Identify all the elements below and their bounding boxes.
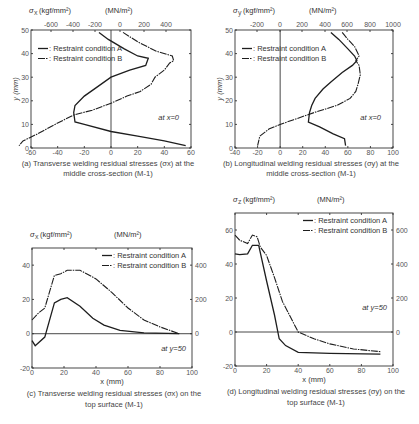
y-tick-label: 60 (225, 227, 233, 234)
x-tick-label: -20 (253, 149, 263, 156)
y-tick-label: 0 (229, 329, 233, 336)
x-tick-label: 0 (109, 149, 113, 156)
caption-line-1: (c) Transverse welding residual stresses… (27, 389, 201, 398)
x-top-tick-label: -200 (88, 21, 102, 28)
y-axis-symbol-sub: z (238, 198, 242, 205)
x-tick-label: 60 (326, 367, 334, 374)
y-tick-label: 20 (225, 97, 233, 104)
y-right-tick-label: 400 (195, 262, 207, 269)
caption-line-2: top surface (M-1) (85, 400, 143, 409)
y-axis-symbol-sub: y (238, 9, 242, 17)
annotation: at x=0 (158, 113, 179, 122)
y-right-tick-label: 400 (396, 261, 408, 268)
x-tick-label: 20 (263, 367, 271, 374)
series-restraint-b (32, 270, 179, 333)
y-axis-label: y (mm) (11, 77, 20, 102)
x-top-tick-label: 1000 (385, 21, 401, 28)
y-tick-label: 40 (225, 261, 233, 268)
x-top-tick-label: 400 (319, 21, 331, 28)
x-tick-label: 80 (156, 369, 164, 376)
annotation: at y=50 (161, 344, 187, 353)
annotation: at x=0 (360, 113, 381, 122)
y-right-tick-label: 200 (195, 296, 207, 303)
y-tick-label: 20 (21, 97, 29, 104)
y-right-tick-label: 600 (396, 227, 408, 234)
x-tick-label: 0 (30, 369, 34, 376)
unit-label-kgf: (kgf/mm²) (39, 6, 72, 15)
figure-canvas: σx(kgf/mm²)(MN/m²)-60-40-200204060-600-4… (0, 0, 419, 424)
y-tick-label: -20 (223, 363, 233, 370)
chart-a: σx(kgf/mm²)(MN/m²)-60-40-200204060-600-4… (11, 6, 195, 178)
caption-line-1: (b) Longitudinal welding residual stress… (223, 159, 399, 168)
x-top-tick-label: 0 (118, 21, 122, 28)
x-tick-label: 20 (299, 149, 307, 156)
caption-line-1: (a) Transverse welding residual stresses… (22, 159, 195, 168)
x-tick-label: 100 (387, 367, 399, 374)
x-tick-label: 60 (124, 369, 132, 376)
x-tick-label: 100 (387, 149, 399, 156)
y-tick-label: 40 (21, 50, 29, 57)
x-tick-label: 60 (187, 149, 195, 156)
legend-b: : Restraint condition B (113, 261, 186, 270)
y-tick-label: 20 (225, 295, 233, 302)
unit-label-mn: (MN/m²) (114, 230, 142, 239)
y-tick-label: 30 (21, 74, 29, 81)
unit-label-mn: (MN/m²) (309, 6, 337, 15)
x-top-tick-label: 200 (296, 21, 308, 28)
x-top-tick-label: -200 (250, 21, 264, 28)
x-top-tick-label: 600 (341, 21, 353, 28)
series-restraint-a (32, 298, 179, 346)
x-tick-label: 60 (344, 149, 352, 156)
y-tick-label: 20 (22, 296, 30, 303)
x-tick-label: 40 (92, 369, 100, 376)
x-tick-label: 40 (160, 149, 168, 156)
y-tick-label: 10 (225, 121, 233, 128)
chart-d: σz(kgf/mm²)(MN/m²)020406080100-200204060… (223, 195, 408, 407)
x-axis-label: x (mm) (100, 377, 124, 386)
y-tick-label: 50 (225, 27, 233, 34)
y-axis-symbol-sub: x (34, 9, 38, 16)
caption-line-2: middle cross-section (M-1) (63, 169, 153, 178)
y-tick-label: -20 (20, 365, 30, 372)
y-tick-label: 50 (21, 27, 29, 34)
x-tick-label: 20 (134, 149, 142, 156)
x-tick-label: 40 (321, 149, 329, 156)
y-right-tick-label: 0 (195, 330, 199, 337)
legend-a: : Restraint condition A (49, 44, 122, 53)
y-tick-label: 40 (225, 50, 233, 57)
x-tick-label: 80 (358, 367, 366, 374)
y-right-tick-label: 0 (396, 329, 400, 336)
legend-a: : Restraint condition A (113, 251, 186, 260)
legend-b: : Restraint condition B (253, 54, 326, 63)
x-tick-label: 40 (294, 367, 302, 374)
chart-c: σx(kgf/mm²)(MN/m²)020406080100-200204002… (20, 230, 207, 409)
plot-frame (235, 213, 393, 366)
y-axis-label: y (mm) (215, 77, 224, 102)
x-tick-label: 0 (233, 367, 237, 374)
x-tick-label: -40 (53, 149, 63, 156)
y-tick-label: 0 (25, 145, 29, 152)
x-tick-label: 0 (278, 149, 282, 156)
legend-b: : Restraint condition B (314, 226, 387, 235)
y-tick-label: 40 (22, 262, 30, 269)
y-tick-label: 0 (229, 145, 233, 152)
x-tick-label: -20 (79, 149, 89, 156)
legend-a: : Restraint condition A (253, 44, 326, 53)
chart-b: σy(kgf/mm²)(MN/m²)-40-20020406080100-200… (215, 6, 401, 178)
annotation: at y=50 (362, 303, 388, 312)
x-top-tick-label: 400 (160, 21, 172, 28)
y-tick-label: 30 (225, 74, 233, 81)
y-tick-label: 10 (21, 121, 29, 128)
caption-line-1: (d) Longitudinal welding residual stress… (227, 387, 405, 396)
x-axis-label: x (mm) (302, 375, 326, 384)
x-top-tick-label: 200 (138, 21, 150, 28)
unit-label-kgf: (kgf/mm²) (243, 6, 276, 15)
series-restraint-b (235, 235, 380, 352)
unit-label-kgf: (kgf/mm²) (40, 230, 73, 239)
y-right-tick-label: 200 (396, 295, 408, 302)
x-tick-label: 100 (186, 369, 198, 376)
unit-label-mn: (MN/m²) (105, 6, 133, 15)
y-axis-symbol-sub: x (35, 233, 39, 240)
x-top-tick-label: 0 (278, 21, 282, 28)
series-restraint-a (235, 245, 380, 354)
